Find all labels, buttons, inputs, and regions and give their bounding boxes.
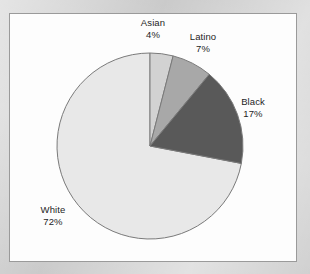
- pie-label-black: Black 17%: [223, 96, 283, 119]
- pie-label-latino: Latino 7%: [173, 31, 233, 54]
- pie-label-asian-name: Asian: [123, 17, 183, 29]
- pie-label-latino-value: 7%: [173, 43, 233, 55]
- chart-frame: Asian 4% Latino 7% Black 17% White 72%: [9, 13, 297, 262]
- pie-label-white: White 72%: [23, 204, 83, 227]
- pie-label-white-name: White: [23, 204, 83, 216]
- pie-label-white-value: 72%: [23, 216, 83, 228]
- pie-label-black-value: 17%: [223, 108, 283, 120]
- pie-label-black-name: Black: [223, 96, 283, 108]
- pie-chart: Asian 4% Latino 7% Black 17% White 72%: [10, 14, 298, 263]
- pie-label-latino-name: Latino: [173, 31, 233, 43]
